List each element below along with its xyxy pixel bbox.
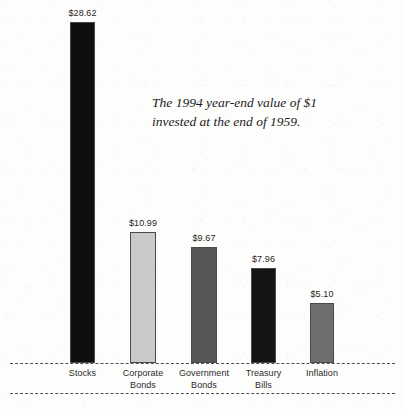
chart-annotation: The 1994 year-end value of $1 invested a… bbox=[152, 93, 362, 131]
bar-government-bonds bbox=[191, 247, 217, 363]
category-label-inflation: Inflation bbox=[287, 368, 357, 380]
value-label-corporate-bonds: $10.99 bbox=[112, 218, 174, 229]
bar-corporate-bonds bbox=[130, 232, 156, 363]
category-label-stocks: Stocks bbox=[52, 368, 113, 380]
bar-stocks bbox=[70, 22, 95, 363]
value-label-government-bonds: $9.67 bbox=[173, 233, 235, 244]
bar-chart-plot-area: $28.62 Stocks $10.99 Corporate Bonds $9.… bbox=[0, 0, 405, 414]
footer-rule bbox=[10, 393, 395, 394]
axis-baseline bbox=[10, 363, 395, 364]
annotation-line-2: invested at the end of 1959. bbox=[152, 112, 362, 131]
value-label-treasury-bills: $7.96 bbox=[233, 254, 294, 265]
chart-page: $28.62 Stocks $10.99 Corporate Bonds $9.… bbox=[0, 0, 405, 414]
value-label-inflation: $5.10 bbox=[291, 289, 353, 300]
bar-treasury-bills bbox=[251, 268, 276, 363]
annotation-line-1: The 1994 year-end value of $1 bbox=[152, 93, 362, 112]
value-label-stocks: $28.62 bbox=[52, 8, 113, 19]
bar-inflation bbox=[310, 303, 334, 363]
